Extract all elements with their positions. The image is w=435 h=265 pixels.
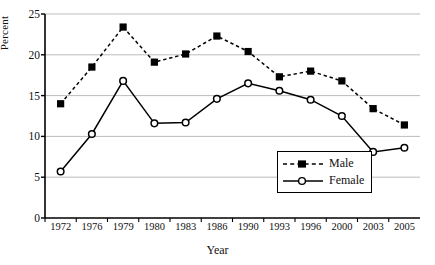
legend-label-male: Male [329, 156, 354, 171]
data-point-female [245, 80, 252, 87]
series-line-male [61, 27, 405, 125]
data-point-male [213, 32, 220, 39]
data-point-male [88, 63, 95, 70]
legend-symbol-male-dashed-square [282, 158, 324, 170]
legend-item-female: Female [282, 172, 364, 189]
data-point-female [401, 145, 408, 152]
data-point-male [370, 105, 377, 112]
chart-legend: Male Female [277, 151, 372, 193]
line-chart: 0510152025 19721976197919801983198619901… [0, 0, 435, 265]
data-point-male [182, 50, 189, 57]
data-point-female [151, 120, 158, 127]
data-point-male [57, 100, 64, 107]
data-point-female [339, 113, 346, 120]
data-point-female [182, 119, 189, 126]
legend-label-female: Female [329, 173, 364, 188]
data-point-male [276, 73, 283, 80]
data-point-male [338, 77, 345, 84]
legend-item-male: Male [282, 155, 364, 172]
legend-symbol-female-solid-circle [282, 175, 324, 187]
data-point-female [120, 78, 127, 85]
data-point-female [276, 87, 283, 94]
data-point-male [245, 48, 252, 55]
data-point-female [89, 131, 96, 138]
plot-area [0, 0, 435, 265]
data-point-male [120, 23, 127, 30]
data-point-male [307, 68, 314, 75]
data-point-male [401, 121, 408, 128]
data-point-male [151, 59, 158, 66]
data-point-female [57, 168, 64, 175]
data-point-female [307, 96, 314, 103]
data-point-female [214, 96, 221, 103]
